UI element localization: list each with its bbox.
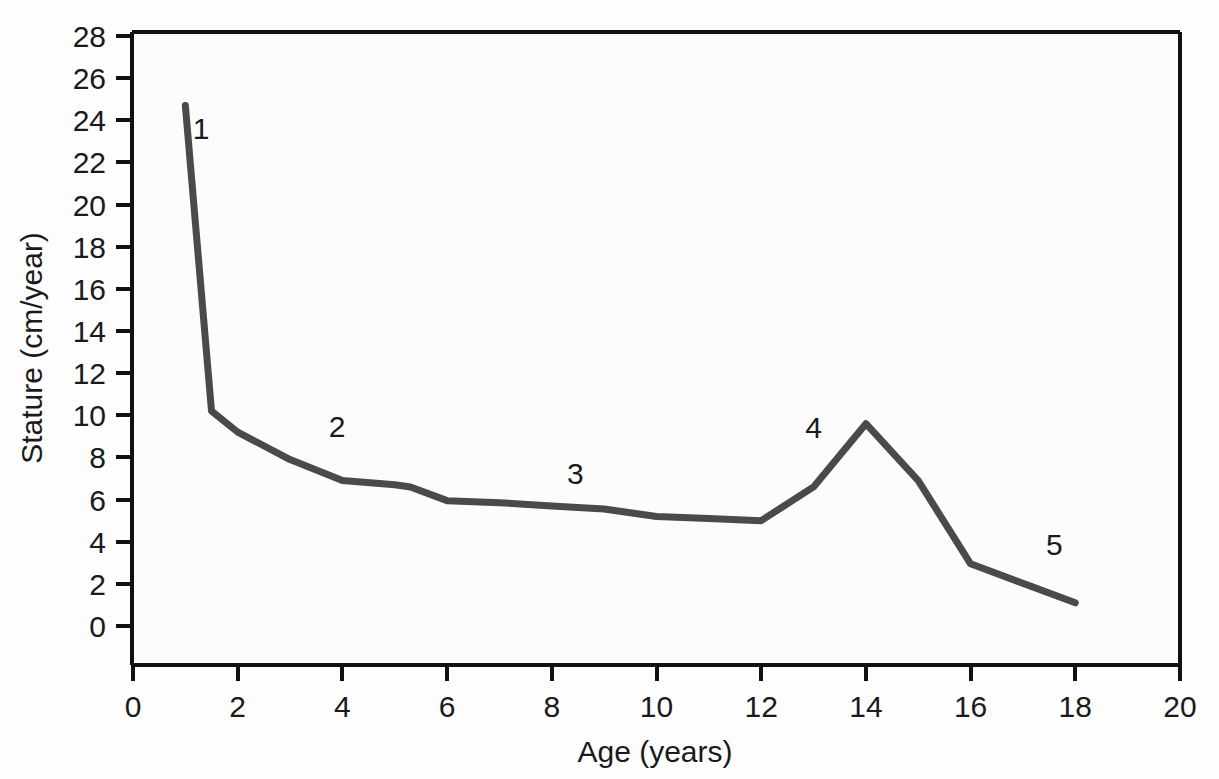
- chart-canvas: 0246810121416182022242628 02468101214161…: [0, 0, 1219, 779]
- x-axis-title: Age (years): [577, 735, 732, 768]
- y-tick-label: 2: [89, 568, 106, 601]
- y-tick-label: 24: [73, 104, 106, 137]
- y-tick-label: 8: [89, 441, 106, 474]
- y-tick-label: 28: [73, 20, 106, 53]
- x-tick-label: 10: [640, 690, 673, 723]
- x-tick-label: 6: [439, 690, 456, 723]
- growth-velocity-chart: 0246810121416182022242628 02468101214161…: [0, 0, 1219, 779]
- x-tick-label: 14: [849, 690, 882, 723]
- curve-annotation-3: 3: [567, 457, 584, 490]
- curve-annotation-4: 4: [805, 411, 822, 444]
- y-tick-label: 0: [89, 610, 106, 643]
- y-tick-label: 14: [73, 315, 106, 348]
- x-tick-label: 12: [745, 690, 778, 723]
- y-axis-ticks: 0246810121416182022242628: [73, 20, 132, 643]
- y-tick-label: 26: [73, 62, 106, 95]
- plot-background: [130, 32, 1180, 665]
- y-tick-label: 12: [73, 357, 106, 390]
- y-tick-label: 10: [73, 399, 106, 432]
- y-tick-label: 22: [73, 146, 106, 179]
- y-axis-title: Stature (cm/year): [15, 232, 48, 464]
- y-tick-label: 4: [89, 526, 106, 559]
- y-tick-label: 16: [73, 273, 106, 306]
- x-tick-label: 4: [334, 690, 351, 723]
- x-tick-label: 8: [543, 690, 560, 723]
- y-tick-label: 18: [73, 231, 106, 264]
- curve-annotation-5: 5: [1046, 528, 1063, 561]
- x-tick-label: 0: [125, 690, 142, 723]
- curve-annotation-1: 1: [193, 112, 210, 145]
- x-tick-label: 2: [229, 690, 246, 723]
- x-tick-label: 20: [1163, 690, 1196, 723]
- curve-annotation-2: 2: [329, 410, 346, 443]
- x-axis-ticks: 02468101214161820: [125, 665, 1197, 723]
- x-tick-label: 16: [954, 690, 987, 723]
- x-tick-label: 18: [1059, 690, 1092, 723]
- y-tick-label: 6: [89, 484, 106, 517]
- y-tick-label: 20: [73, 189, 106, 222]
